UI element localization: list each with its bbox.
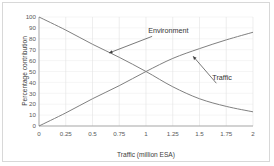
x-tick-label: 0.25 bbox=[60, 130, 73, 137]
y-tick-label: 50 bbox=[29, 68, 36, 75]
x-tick-label: 1.25 bbox=[167, 130, 180, 137]
y-tick-label: 90 bbox=[29, 24, 36, 31]
x-tick-label: 1.5 bbox=[195, 130, 204, 137]
y-tick-label: 60 bbox=[29, 57, 36, 64]
y-tick-label: 40 bbox=[29, 79, 36, 86]
x-tick-label: 0.5 bbox=[88, 130, 97, 137]
chart-figure: 0102030405060708090100 00.250.50.7511.25… bbox=[0, 0, 274, 166]
line-chart: 0102030405060708090100 00.250.50.7511.25… bbox=[0, 0, 274, 166]
y-tick-label: 20 bbox=[29, 100, 36, 107]
y-axis-title: Percentage contribution bbox=[21, 36, 29, 106]
y-tick-label: 10 bbox=[29, 111, 36, 118]
x-tick-label: 0.75 bbox=[113, 130, 126, 137]
x-tick-label: 2 bbox=[251, 130, 255, 137]
x-tick-label: 0 bbox=[37, 130, 41, 137]
y-tick-label: 30 bbox=[29, 90, 36, 97]
y-tick-label: 70 bbox=[29, 46, 36, 53]
y-tick-label: 100 bbox=[26, 13, 37, 20]
x-axis-tick-labels: 00.250.50.7511.251.51.752 bbox=[37, 130, 255, 137]
series-label-environment: Environment bbox=[148, 26, 188, 35]
x-axis-title: Traffic (million ESA) bbox=[117, 151, 175, 159]
series-label-traffic: Traffic bbox=[212, 73, 232, 82]
y-tick-label: 0 bbox=[33, 122, 37, 129]
y-tick-label: 80 bbox=[29, 35, 36, 42]
x-tick-label: 1.75 bbox=[220, 130, 233, 137]
x-tick-label: 1 bbox=[144, 130, 148, 137]
